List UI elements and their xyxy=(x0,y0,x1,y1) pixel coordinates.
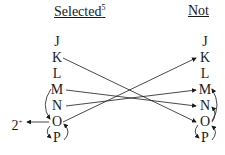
loop-left-O-P xyxy=(47,126,51,138)
loop-left-M-O xyxy=(45,89,51,119)
loop-right-P-O xyxy=(212,126,216,140)
loop-right-O-P xyxy=(195,125,199,138)
loop-left-P-O xyxy=(64,124,68,140)
edges-layer xyxy=(0,0,225,155)
